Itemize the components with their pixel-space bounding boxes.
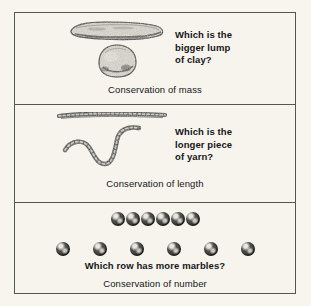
marble bbox=[141, 212, 155, 226]
marble bbox=[93, 242, 107, 256]
yarn-straight bbox=[59, 114, 165, 119]
panel-conservation-of-mass: Which is the bigger lump of clay? Conser… bbox=[15, 13, 295, 104]
question-text-mass: Which is the bigger lump of clay? bbox=[175, 29, 232, 67]
marble bbox=[171, 212, 185, 226]
marble-row-spread bbox=[15, 242, 295, 256]
clay-ball bbox=[99, 45, 136, 77]
caption-conservation-of-length: Conservation of length bbox=[15, 178, 295, 189]
marble bbox=[56, 242, 70, 256]
marble bbox=[130, 242, 144, 256]
marble bbox=[111, 212, 125, 226]
marble bbox=[126, 212, 140, 226]
yarn-pieces-illustration bbox=[53, 106, 178, 174]
caption-conservation-of-mass: Conservation of mass bbox=[15, 84, 295, 95]
marble-row-close bbox=[15, 212, 295, 226]
question-text-length: Which is the longer piece of yarn? bbox=[175, 126, 232, 164]
yarn-curved bbox=[65, 128, 139, 165]
clay-lumps-illustration bbox=[63, 17, 173, 79]
marble bbox=[204, 242, 218, 256]
clay-log bbox=[71, 22, 163, 40]
panel-conservation-of-number: Which row has more marbles? Conservation… bbox=[15, 202, 295, 295]
caption-conservation-of-number: Conservation of number bbox=[15, 278, 295, 289]
panel-conservation-of-length: Which is the longer piece of yarn? Conse… bbox=[15, 104, 295, 202]
marble bbox=[186, 212, 200, 226]
marble bbox=[241, 242, 255, 256]
marble bbox=[156, 212, 170, 226]
question-text-number: Which row has more marbles? bbox=[15, 260, 295, 271]
figure-frame: Which is the bigger lump of clay? Conser… bbox=[14, 12, 296, 294]
marble bbox=[167, 242, 181, 256]
conservation-tasks-figure: Which is the bigger lump of clay? Conser… bbox=[0, 0, 311, 306]
